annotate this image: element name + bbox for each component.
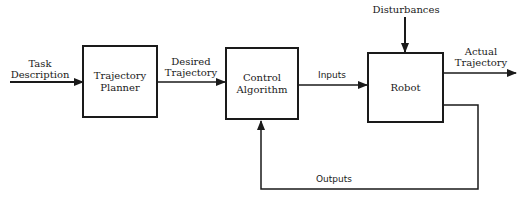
- robot-control-block-diagram: Trajectory Planner Control Algorithm Rob…: [0, 0, 525, 201]
- control-algorithm-block: Control Algorithm: [225, 47, 299, 120]
- robot-block: Robot: [367, 52, 444, 123]
- trajectory-planner-label: Trajectory Planner: [94, 70, 147, 94]
- task-description-label: Task Description: [10, 58, 70, 80]
- outputs-label: Outputs: [312, 174, 356, 185]
- robot-label: Robot: [391, 82, 421, 94]
- inputs-label: Inputs: [312, 70, 352, 81]
- trajectory-planner-block: Trajectory Planner: [82, 45, 158, 118]
- actual-trajectory-label: Actual Trajectory: [450, 46, 512, 68]
- disturbances-label: Disturbances: [372, 4, 440, 15]
- control-algorithm-label: Control Algorithm: [237, 72, 288, 96]
- desired-trajectory-label: Desired Trajectory: [160, 56, 222, 78]
